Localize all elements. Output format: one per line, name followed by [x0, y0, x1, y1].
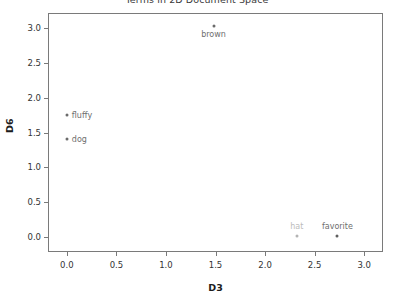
x-axis-tick-label: 2.0 [258, 260, 272, 270]
y-axis-tick [44, 98, 49, 99]
x-axis-tick [116, 251, 117, 256]
x-axis-tick-label: 3.0 [357, 260, 371, 270]
y-axis-tick-label: 2.5 [27, 58, 41, 68]
x-axis-tick-label: 0.5 [110, 260, 124, 270]
x-axis-tick-label: 0.0 [60, 260, 74, 270]
y-axis-tick [44, 202, 49, 203]
x-axis-tick [67, 251, 68, 256]
y-axis-tick-label: 2.0 [27, 93, 41, 103]
y-axis-tick [44, 28, 49, 29]
x-axis-tick [364, 251, 365, 256]
y-axis-tick [44, 237, 49, 238]
x-axis-tick [216, 251, 217, 256]
x-axis-label: D3 [48, 282, 383, 293]
data-point-label: dog [72, 135, 87, 144]
y-axis-tick [44, 63, 49, 64]
plot-area: brownfluffydoghatfavorite 0.00.51.01.52.… [48, 13, 383, 252]
y-axis-tick-label: 0.0 [27, 232, 41, 242]
data-point-marker [212, 24, 215, 27]
y-axis-tick [44, 133, 49, 134]
data-point-marker [65, 138, 68, 141]
plot-inner: brownfluffydoghatfavorite [49, 14, 382, 251]
data-point-marker [295, 234, 298, 237]
y-axis-label: D6 [4, 119, 15, 134]
y-axis-tick-label: 1.0 [27, 162, 41, 172]
data-point-marker [65, 114, 68, 117]
x-axis-tick-label: 1.0 [159, 260, 173, 270]
x-axis-tick [315, 251, 316, 256]
data-point-label: brown [201, 30, 226, 39]
y-axis-tick-label: 3.0 [27, 23, 41, 33]
x-axis-tick-label: 2.5 [308, 260, 322, 270]
data-point-marker [336, 234, 339, 237]
y-axis-tick-label: 0.5 [27, 197, 41, 207]
x-axis-tick [265, 251, 266, 256]
chart-title: Terms in 2D Document Space [0, 0, 394, 5]
x-axis-tick [166, 251, 167, 256]
data-point-label: hat [290, 222, 303, 231]
data-point-label: fluffy [72, 111, 92, 120]
x-axis-tick-label: 1.5 [209, 260, 223, 270]
data-point-label: favorite [322, 222, 353, 231]
y-axis-tick-label: 1.5 [27, 128, 41, 138]
y-axis-tick [44, 167, 49, 168]
scatter-plot-figure: Terms in 2D Document Space brownfluffydo… [0, 0, 394, 304]
